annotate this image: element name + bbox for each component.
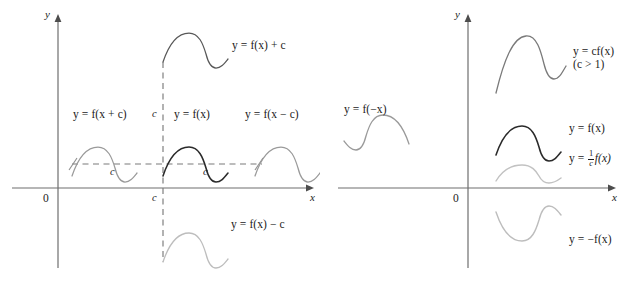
y-axis-label-right: y [455,8,460,20]
label-f-of-x-plus-c-vertical: y = f(x) + c [232,39,286,52]
origin-label-left: 0 [43,192,49,205]
function-transformations-figure: y x 0 y = f(x) + c y = f(x + c) y = f(x)… [0,0,639,286]
x-axis-right [338,184,616,191]
measure-c-horizontal-left: c [110,166,115,178]
curve-one-over-c-f-of-x [496,165,561,183]
label-f-of-x-plus-c: y = f(x + c) [73,108,127,121]
curve-f-of-negative-x [344,115,409,150]
x-axis-label-left: x [310,191,315,203]
measure-c-vertical-upper: c [152,108,157,120]
y-axis-right [465,14,472,268]
label-f-of-negative-x: y = f(−x) [344,103,387,116]
curve-f-of-x-plus-c [163,33,228,68]
x-axis-label-right: x [612,191,617,203]
panel-stretch-reflect: y x 0 y = cf(x) (c > 1) y = f(x) y = 1cf… [320,0,639,286]
origin-label-right: 0 [453,192,459,205]
label-f-of-x-left: y = f(x) [174,108,210,121]
curve-f-of-x-right [496,126,561,161]
curve-f-of-x-minus-c-vertical [163,233,228,268]
label-negative-f-of-x: y = −f(x) [569,233,612,246]
curve-c-times-f-of-x [496,36,566,93]
fraction-one-over-c: 1c [588,150,594,168]
label-c-times-f-of-x: y = cf(x) [573,45,614,58]
label-one-over-c-suffix: f(x) [595,152,611,164]
label-one-over-c-prefix: y = [569,152,587,164]
curve-f-of-x-minus-c [255,147,320,182]
measure-c-horizontal-right: c [203,166,208,178]
curve-negative-f-of-x [496,206,561,241]
label-f-of-x-minus-c: y = f(x − c) [245,108,299,121]
curve-f-of-x [163,147,228,182]
fraction-numerator: 1 [588,150,594,159]
label-f-of-x-right: y = f(x) [569,122,605,135]
y-axis-left [55,14,62,268]
fraction-denominator: c [588,159,594,169]
label-f-of-x-minus-c-vertical: y = f(x) − c [231,218,285,231]
panel-translations: y x 0 y = f(x) + c y = f(x + c) y = f(x)… [0,0,320,286]
measure-c-vertical-lower: c [152,192,157,204]
y-axis-label-left: y [45,8,50,20]
label-c-greater-than-one: (c > 1) [573,58,604,71]
label-one-over-c-f-of-x: y = 1cf(x) [569,150,611,168]
